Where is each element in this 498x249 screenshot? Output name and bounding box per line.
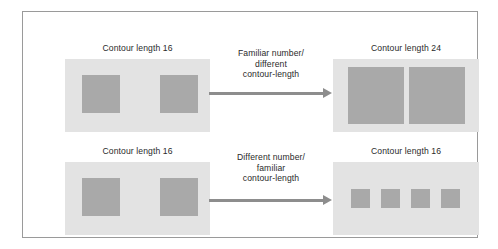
arrow-caption-line-2: different (255, 59, 287, 69)
arrow-head-icon (323, 195, 332, 205)
stimulus-square (409, 67, 465, 124)
arrow-caption-top: Familiar number/ different contour-lengt… (209, 48, 333, 80)
arrow-caption-bottom: Different number/ familiar contour-lengt… (209, 152, 333, 184)
stimulus-square (160, 75, 198, 113)
arrow-caption-line-2: familiar (257, 163, 286, 173)
transition-arrow-top: Familiar number/ different contour-lengt… (209, 48, 333, 104)
panel-label-bottom-right: Contour length 16 (333, 146, 479, 156)
figure-canvas: Contour length 16 Familiar number/ diffe… (0, 0, 498, 249)
figure-border: Contour length 16 Familiar number/ diffe… (22, 11, 478, 238)
stimulus-panel-top-left (65, 59, 210, 132)
transition-arrow-bottom: Different number/ familiar contour-lengt… (209, 152, 333, 208)
panel-label-bottom-left: Contour length 16 (65, 146, 210, 156)
stimulus-square (82, 178, 120, 216)
arrow-caption-line-3: contour-length (243, 173, 299, 183)
arrow-caption-line-1: Different number/ (237, 152, 305, 162)
panel-label-top-right: Contour length 24 (333, 43, 479, 53)
stimulus-panel-bottom-left (65, 162, 210, 235)
arrow-caption-line-1: Familiar number/ (238, 48, 304, 58)
arrow-shaft (209, 199, 324, 202)
stimulus-square (411, 189, 430, 208)
arrow-caption-line-3: contour-length (243, 69, 299, 79)
stimulus-square (351, 189, 370, 208)
stimulus-square (82, 75, 120, 113)
arrow-head-icon (323, 88, 332, 98)
stimulus-square (441, 189, 460, 208)
panel-label-top-left: Contour length 16 (65, 43, 210, 53)
stimulus-square (348, 67, 404, 124)
stimulus-square (160, 178, 198, 216)
stimulus-panel-top-right (333, 59, 479, 132)
stimulus-square (381, 189, 400, 208)
stimulus-panel-bottom-right (333, 162, 479, 235)
arrow-shaft (209, 92, 324, 95)
